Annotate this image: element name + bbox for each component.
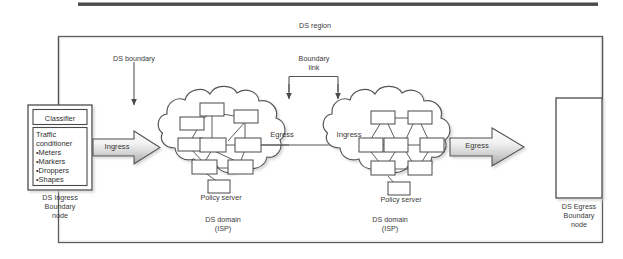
ds-domain-right-isp-label: (ISP) [357, 225, 423, 233]
traffic-conditioner-item-shapes: •Shapes [36, 175, 88, 185]
ds-domain-left-cloud [158, 86, 285, 172]
ds-domain-left-isp-label: (ISP) [190, 225, 256, 233]
ds-region-label: DS region [285, 22, 345, 30]
boundary-link-label-line2: link [289, 64, 339, 72]
ds-domain-left-routers [178, 103, 261, 193]
policy-server-label-left: Policy server [186, 194, 256, 202]
egress-node-caption-line3: node [544, 221, 614, 229]
top-bar [78, 3, 598, 6]
ingress-block-arrow-label: Ingress [99, 143, 135, 152]
ingress-node-caption-line3: node [22, 212, 98, 220]
egress-block-arrow-label: Egress [458, 142, 496, 151]
ingress-link-label: Ingress [330, 131, 368, 140]
policy-server-label-right: Policy server [366, 196, 436, 204]
boundary-link-arrows [289, 77, 338, 100]
ds-egress-boundary-node [556, 98, 602, 198]
ds-boundary-label: DS boundary [103, 55, 165, 63]
classifier-label: Classifier [33, 114, 87, 124]
egress-link-label: Egress [264, 131, 300, 140]
diagram-page: DS region DS boundary Boundary link Clas… [0, 0, 623, 259]
